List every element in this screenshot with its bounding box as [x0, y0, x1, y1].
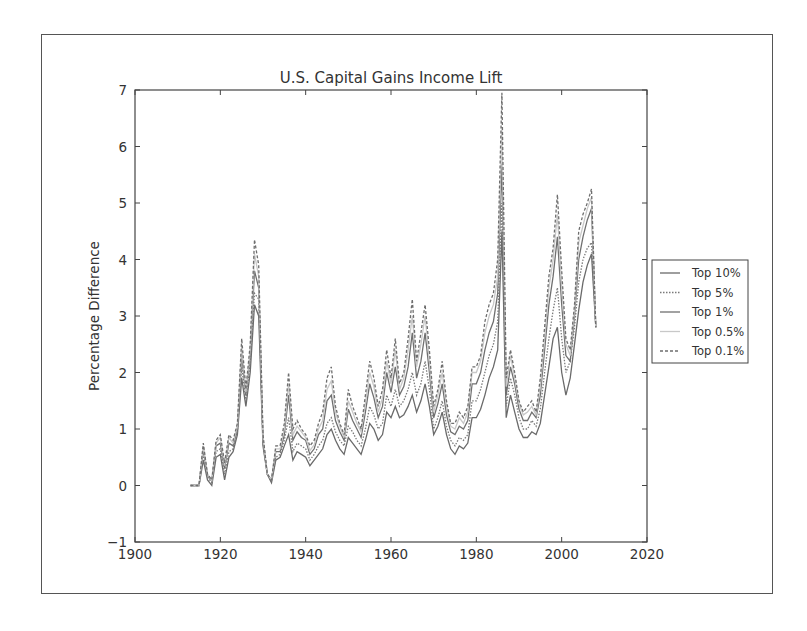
- y-tick-label: 2: [118, 365, 127, 381]
- y-tick-label: 7: [118, 82, 127, 98]
- x-tick-label: 1940: [288, 546, 322, 562]
- y-tick-label: 5: [118, 195, 127, 211]
- legend-label-0: Top 10%: [691, 266, 741, 280]
- x-tick-label: 1980: [459, 546, 493, 562]
- legend-label-3: Top 0.5%: [691, 325, 744, 339]
- legend-label-1: Top 5%: [691, 286, 733, 300]
- axis-ticks: 1900192019401960198020002020−101234567: [107, 82, 664, 562]
- y-tick-label: −1: [107, 534, 127, 550]
- plot-lines: [191, 93, 596, 486]
- y-axis-label: Percentage Difference: [86, 241, 102, 391]
- x-tick-label: 1960: [374, 546, 408, 562]
- chart-title: U.S. Capital Gains Income Lift: [280, 69, 503, 87]
- legend-label-2: Top 1%: [691, 305, 733, 319]
- y-tick-label: 0: [118, 478, 127, 494]
- y-tick-label: 1: [118, 421, 127, 437]
- x-tick-label: 1920: [203, 546, 237, 562]
- y-tick-label: 4: [118, 252, 127, 268]
- series-line-4: [191, 93, 596, 486]
- y-tick-label: 6: [118, 139, 127, 155]
- y-tick-label: 3: [118, 308, 127, 324]
- legend-label-4: Top 0.1%: [691, 344, 744, 358]
- chart-canvas: 1900192019401960198020002020−101234567 U…: [0, 0, 807, 631]
- x-tick-label: 2020: [630, 546, 664, 562]
- x-tick-label: 2000: [544, 546, 578, 562]
- legend: Top 10%Top 5%Top 1%Top 0.5%Top 0.1%: [652, 260, 748, 363]
